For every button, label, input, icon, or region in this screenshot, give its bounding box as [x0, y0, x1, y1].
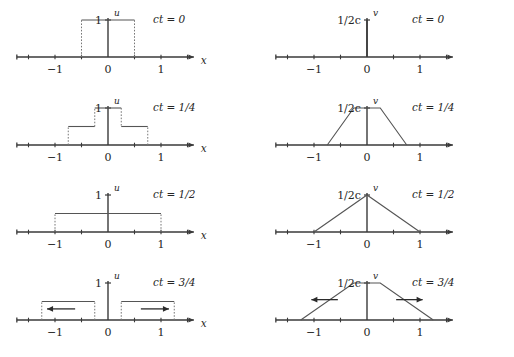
tick-label: 0	[364, 326, 371, 339]
motion-arrow-left	[47, 306, 75, 312]
function-label: v	[373, 96, 378, 106]
x-axis	[276, 229, 453, 234]
tick-label: 1	[417, 63, 424, 76]
panel-left-row-2: −101xu1ct = 1/2	[0, 175, 257, 264]
tick-label: −1	[306, 63, 322, 76]
tick-label: 0	[364, 151, 371, 164]
tick-label: 0	[105, 151, 112, 164]
tick-label: 1	[158, 238, 165, 251]
tick-label: 1	[417, 238, 424, 251]
time-label: ct = 1/2	[153, 188, 196, 200]
motion-arrow-right	[141, 306, 169, 312]
panel-right-row-2: −101v1/2cct = 1/2	[257, 175, 514, 264]
time-label: ct = 3/4	[153, 276, 195, 288]
time-label: ct = 1/2	[412, 188, 455, 200]
panel-left-row-0: −101xu1ct = 0	[0, 0, 257, 89]
x-axis-label: x	[201, 142, 207, 154]
value-label: 1	[95, 14, 102, 27]
x-axis	[276, 54, 453, 59]
function-label: u	[114, 183, 120, 193]
value-label: 1/2c	[337, 277, 361, 290]
motion-arrow-left	[311, 297, 338, 303]
time-label: ct = 0	[412, 13, 445, 25]
value-label: 1/2c	[337, 102, 361, 115]
y-axis	[364, 193, 370, 232]
time-label: ct = 3/4	[412, 276, 454, 288]
tick-label: −1	[306, 238, 322, 251]
value-label: 1	[95, 277, 102, 290]
arrowhead	[163, 306, 169, 312]
tick-label: 1	[158, 151, 165, 164]
tick-label: 0	[105, 63, 112, 76]
x-axis	[17, 317, 194, 322]
tick-label: 1	[417, 151, 424, 164]
x-axis	[17, 142, 194, 147]
function-label: u	[114, 96, 120, 106]
value-label: 1	[95, 189, 102, 202]
tick-label: 0	[105, 238, 112, 251]
panel-right-row-0: −101v1/2cct = 0	[257, 0, 514, 89]
tick-label: 1	[158, 326, 165, 339]
value-label: 1/2c	[337, 189, 361, 202]
panel-left-row-1: −101xu1ct = 1/4	[0, 88, 257, 177]
x-axis-arrowhead	[447, 54, 453, 59]
y-axis	[105, 281, 111, 320]
panel-right-row-1: −101v1/2cct = 1/4	[257, 88, 514, 177]
x-axis-arrowhead	[447, 317, 453, 322]
function-label: v	[373, 271, 378, 281]
function-label: v	[373, 183, 378, 193]
tick-label: 0	[105, 326, 112, 339]
x-axis-label: x	[201, 54, 207, 66]
x-axis-arrowhead	[188, 142, 194, 147]
panel-right-row-3: −101v1/2cct = 3/4	[257, 263, 514, 352]
arrowhead	[417, 297, 423, 303]
tick-label: −1	[306, 151, 322, 164]
value-label: 1	[95, 102, 102, 115]
function-label: u	[114, 271, 120, 281]
panel-left-row-3: −101xu1ct = 3/4	[0, 263, 257, 352]
tick-label: 0	[364, 63, 371, 76]
value-label: 1/2c	[337, 14, 361, 27]
x-axis	[276, 142, 453, 147]
arrowhead	[311, 297, 317, 303]
wave-equation-figure: −101xu1ct = 0−101v1/2cct = 0−101xu1ct = …	[0, 0, 514, 357]
time-label: ct = 1/4	[153, 101, 195, 113]
x-axis-arrowhead	[188, 317, 194, 322]
x-axis	[17, 54, 194, 59]
x-axis-label: x	[201, 229, 207, 241]
x-axis-arrowhead	[188, 54, 194, 59]
y-axis	[105, 18, 111, 57]
x-axis-label: x	[201, 317, 207, 329]
x-axis	[17, 229, 194, 234]
time-label: ct = 1/4	[412, 101, 454, 113]
arrowhead	[47, 306, 53, 312]
function-label: u	[114, 8, 120, 18]
y-axis	[364, 106, 370, 145]
tick-label: −1	[47, 326, 63, 339]
x-axis-arrowhead	[447, 229, 453, 234]
motion-arrow-right	[396, 297, 423, 303]
function-label: v	[373, 8, 378, 18]
y-axis	[364, 281, 370, 320]
tick-label: 1	[417, 326, 424, 339]
x-axis-arrowhead	[188, 229, 194, 234]
y-axis	[105, 193, 111, 232]
tick-label: −1	[47, 63, 63, 76]
x-axis	[276, 317, 453, 322]
tick-label: 1	[158, 63, 165, 76]
x-axis-arrowhead	[447, 142, 453, 147]
tick-label: −1	[47, 151, 63, 164]
tick-label: −1	[306, 326, 322, 339]
y-axis	[105, 106, 111, 145]
tick-label: −1	[47, 238, 63, 251]
time-label: ct = 0	[153, 13, 186, 25]
tick-label: 0	[364, 238, 371, 251]
